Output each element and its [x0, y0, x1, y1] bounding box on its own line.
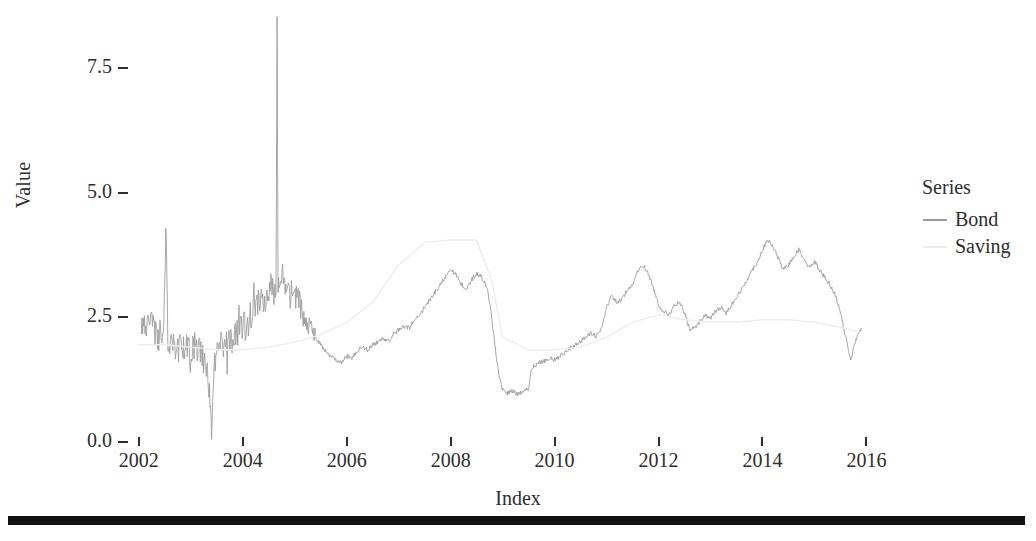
- legend-item-bond[interactable]: Bond: [922, 206, 1036, 233]
- legend-title: Series: [922, 176, 1036, 199]
- chart-figure: Value 0.02.55.07.5 200220042006200820102…: [0, 0, 1036, 541]
- x-tick-label: 2006: [302, 450, 392, 470]
- legend-item-label: Bond: [955, 208, 998, 231]
- y-tick-label: 2.5: [40, 305, 112, 325]
- y-axis-title: Value: [12, 125, 35, 245]
- x-tick-mark: [865, 437, 867, 446]
- x-tick-mark: [761, 437, 763, 446]
- x-tick-label: 2002: [94, 450, 184, 470]
- x-tick-mark: [450, 437, 452, 446]
- x-tick-mark: [242, 437, 244, 446]
- x-tick-mark: [554, 437, 556, 446]
- x-axis-title: Index: [0, 487, 1036, 510]
- legend-items: BondSaving: [922, 206, 1036, 260]
- x-tick-mark: [658, 437, 660, 446]
- legend-item-label: Saving: [955, 235, 1011, 258]
- x-tick-label: 2014: [717, 450, 807, 470]
- x-tick-mark: [138, 437, 140, 446]
- series-line-bond: [141, 16, 861, 439]
- series-line-saving: [139, 240, 861, 350]
- x-tick-label: 2004: [198, 450, 288, 470]
- legend: Series BondSaving: [922, 176, 1036, 260]
- legend-swatch-icon: [922, 240, 948, 254]
- x-tick-label: 2012: [614, 450, 704, 470]
- x-tick-mark: [346, 437, 348, 446]
- legend-swatch-icon: [922, 213, 948, 227]
- x-tick-label: 2016: [821, 450, 911, 470]
- plot-area: [118, 8, 908, 442]
- y-tick-label: 5.0: [40, 181, 112, 201]
- x-tick-label: 2010: [510, 450, 600, 470]
- y-tick-label: 0.0: [40, 430, 112, 450]
- y-tick-label: 7.5: [40, 56, 112, 76]
- legend-item-saving[interactable]: Saving: [922, 233, 1036, 260]
- plot-svg: [118, 8, 908, 442]
- page-divider-rule: [8, 516, 1025, 525]
- x-tick-label: 2008: [406, 450, 496, 470]
